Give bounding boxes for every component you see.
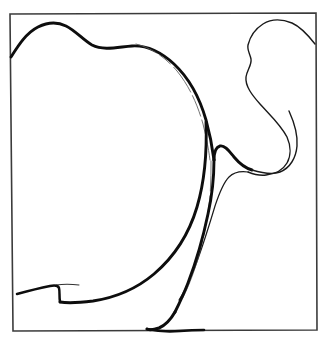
drawing-svg	[0, 0, 334, 343]
canvas-background	[0, 0, 334, 343]
sketch-canvas	[0, 0, 334, 343]
